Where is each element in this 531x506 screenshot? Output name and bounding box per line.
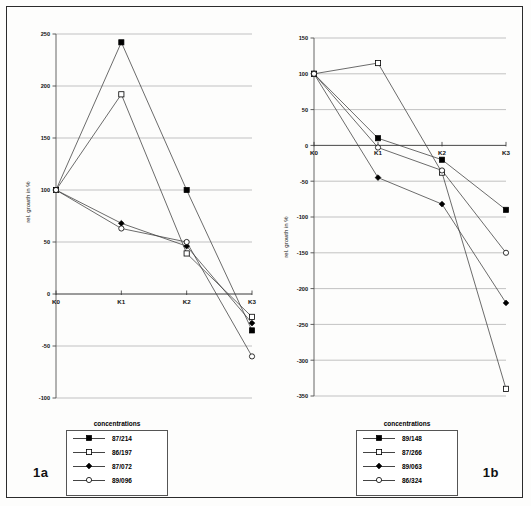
open-circle-icon [86, 477, 91, 482]
legend-sample [72, 446, 106, 458]
legend-item: 86/197 [67, 445, 167, 459]
legend-item: 87/072 [67, 459, 167, 473]
open-circle-icon [53, 187, 58, 192]
y-axis-tick-label: 150 [41, 135, 50, 141]
data-point-marker [375, 136, 380, 141]
open-circle-icon [311, 71, 316, 76]
data-point-marker [503, 250, 508, 255]
y-axis-tick-label: 50 [44, 239, 50, 245]
data-point-marker [119, 226, 124, 231]
y-axis-tick-label: -300 [297, 358, 308, 364]
data-point-marker [311, 71, 316, 76]
series-line [56, 190, 252, 356]
x-axis-tick-label: K2 [438, 149, 446, 156]
filled-square-icon [86, 435, 91, 440]
x-axis-tick-label: K0 [310, 149, 318, 156]
data-point-marker [118, 220, 124, 226]
y-axis-tick-label: -100 [39, 395, 50, 401]
data-point-marker [249, 354, 254, 359]
x-axis-tick-label: K2 [183, 298, 191, 305]
open-circle-icon [119, 226, 124, 231]
legend-marker-filled-diamond [72, 460, 106, 472]
data-point-marker [184, 187, 189, 192]
legend-marker [86, 463, 92, 469]
data-point-marker [375, 175, 381, 181]
legend-sample [362, 446, 396, 458]
data-point-marker [439, 201, 445, 207]
y-axis-tick-label: 50 [302, 107, 308, 113]
legend-item: 87/214 [67, 431, 167, 445]
data-point-marker [439, 168, 444, 173]
data-point-marker [503, 207, 508, 212]
y-axis-title: rel. growth in % [283, 216, 289, 258]
legend-marker [376, 435, 381, 440]
series-line [314, 63, 506, 389]
legend-label: 89/096 [112, 477, 132, 484]
x-axis-tick-label: K3 [502, 149, 510, 156]
x-axis-tick-label: K1 [117, 298, 125, 305]
legend-title-1b: concentrations [298, 420, 516, 427]
y-axis-tick-label: -150 [297, 250, 308, 256]
legend-item: 89/063 [357, 459, 457, 473]
legend-label: 87/072 [112, 463, 132, 470]
chart-panel-1a: -100-50050100150200250K0K1K2K3rel. growt… [8, 12, 263, 492]
legend-marker-filled-square [362, 432, 396, 444]
data-point-marker [375, 60, 380, 65]
legend-marker-open-square [362, 446, 396, 458]
data-point-marker [184, 251, 189, 256]
series-line [56, 42, 252, 330]
chart-panel-1b: -350-300-250-200-150-100-50050100150K0K1… [266, 12, 521, 492]
legend-label: 87/266 [402, 449, 422, 456]
y-axis-tick-label: 150 [299, 35, 308, 41]
y-axis-tick-label: -50 [42, 343, 50, 349]
figure-label-1b: 1b [483, 465, 499, 480]
data-point-marker [503, 386, 508, 391]
legend-sample [72, 460, 106, 472]
data-point-marker [503, 300, 509, 306]
filled-square-icon [184, 187, 189, 192]
data-point-marker [375, 145, 380, 150]
legend-marker-open-circle [362, 474, 396, 486]
legend-marker [376, 463, 382, 469]
y-axis-tick-label: -350 [297, 393, 308, 399]
filled-square-icon [249, 328, 254, 333]
y-axis-tick-label: -50 [300, 179, 308, 185]
y-axis-title: rel. growth in % [25, 181, 31, 223]
filled-diamond-icon [376, 463, 382, 469]
open-square-icon [376, 449, 381, 454]
y-axis-tick-label: -100 [297, 214, 308, 220]
x-axis-tick-label: K3 [248, 298, 256, 305]
legend-marker-open-circle [72, 474, 106, 486]
x-axis-tick-label: K0 [52, 298, 60, 305]
y-axis-tick-label: -200 [297, 286, 308, 292]
y-axis-tick-label: 0 [47, 291, 50, 297]
open-circle-icon [249, 354, 254, 359]
open-square-icon [249, 314, 254, 319]
line-chart-1b: -350-300-250-200-150-100-50050100150K0K1… [266, 12, 521, 412]
open-square-icon [119, 92, 124, 97]
line-chart-1a: -100-50050100150200250K0K1K2K3rel. growt… [8, 12, 263, 412]
data-point-marker [439, 157, 444, 162]
legend-sample [362, 460, 396, 472]
open-circle-icon [184, 239, 189, 244]
open-square-icon [86, 449, 91, 454]
filled-square-icon [119, 40, 124, 45]
legend-sample [72, 474, 106, 486]
legend-label: 87/214 [112, 435, 132, 442]
filled-square-icon [376, 435, 381, 440]
data-point-marker [249, 328, 254, 333]
open-circle-icon [439, 168, 444, 173]
series-line [56, 94, 252, 317]
legend-marker [86, 477, 91, 482]
filled-square-icon [503, 207, 508, 212]
open-square-icon [184, 251, 189, 256]
legend-label: 89/063 [402, 463, 422, 470]
legend-label: 86/324 [402, 477, 422, 484]
open-circle-icon [376, 477, 381, 482]
legend-item: 89/148 [357, 431, 457, 445]
legend-sample [362, 432, 396, 444]
legend-marker [86, 435, 91, 440]
data-point-marker [249, 314, 254, 319]
legend-label: 86/197 [112, 449, 132, 456]
filled-diamond-icon [375, 175, 381, 181]
